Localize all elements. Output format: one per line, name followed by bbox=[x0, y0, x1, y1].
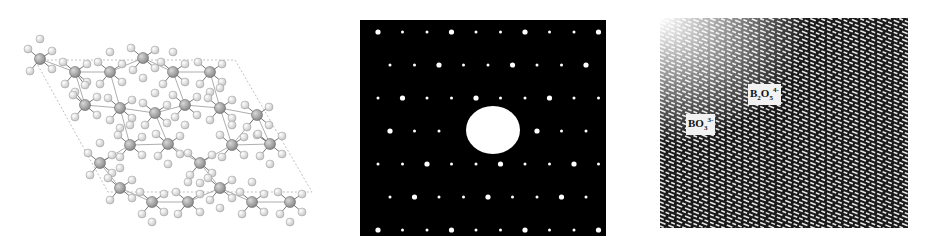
crystal-structure-svg bbox=[0, 0, 345, 243]
label-bo3: BO33- bbox=[686, 114, 715, 135]
label-b2o5: B2O54- bbox=[748, 84, 781, 105]
crystal-structure-diagram bbox=[0, 0, 345, 243]
diffraction-spots-svg bbox=[360, 20, 606, 236]
electron-diffraction-pattern bbox=[360, 20, 606, 236]
hrtem-lattice-image: B2O54- BO33- bbox=[660, 18, 908, 228]
